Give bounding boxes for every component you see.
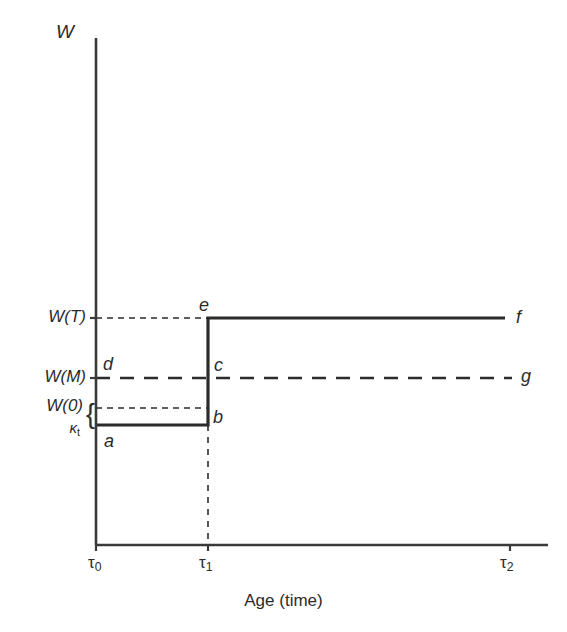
tau-glyph: τ bbox=[500, 553, 507, 572]
point-label-e: e bbox=[199, 296, 209, 314]
y-tick-label-kappa: κt bbox=[70, 420, 81, 438]
tau-subscript: 0 bbox=[95, 560, 102, 574]
y-tick-label-w0: W(0) bbox=[46, 397, 83, 414]
point-label-g: g bbox=[521, 367, 531, 385]
x-axis-title: Age (time) bbox=[0, 592, 567, 609]
kappa-subscript: t bbox=[77, 426, 80, 438]
tau-glyph: τ bbox=[199, 553, 206, 572]
x-tick-label-tau2: τ2 bbox=[500, 554, 514, 574]
y-axis-title: W bbox=[56, 22, 74, 41]
kappa-brace: { bbox=[86, 401, 95, 428]
point-label-a: a bbox=[104, 432, 114, 450]
kappa-glyph: κ bbox=[70, 419, 78, 436]
x-tick-label-tau1: τ1 bbox=[199, 554, 213, 574]
tau-subscript: 1 bbox=[206, 560, 213, 574]
tau-glyph: τ bbox=[88, 553, 95, 572]
point-label-d: d bbox=[103, 355, 113, 373]
point-label-c: c bbox=[214, 356, 223, 374]
y-tick-label-wt: W(T) bbox=[48, 308, 86, 325]
x-tick-label-tau0: τ0 bbox=[88, 554, 102, 574]
point-label-b: b bbox=[213, 408, 223, 426]
tau-subscript: 2 bbox=[507, 560, 514, 574]
y-tick-label-wm: W(M) bbox=[44, 368, 86, 385]
point-label-f: f bbox=[516, 308, 521, 326]
